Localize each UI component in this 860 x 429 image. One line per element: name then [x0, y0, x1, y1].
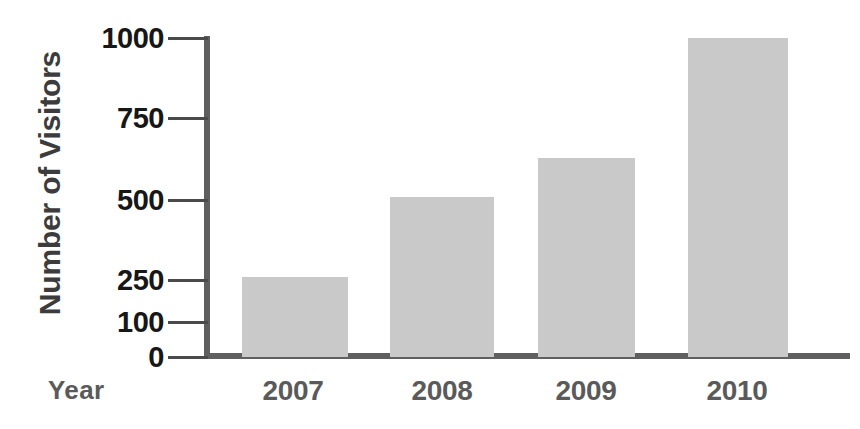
y-tick-label: 250	[44, 266, 164, 295]
y-tick-mark	[168, 356, 208, 359]
bar-2008	[390, 197, 494, 357]
x-axis-title: Year	[48, 375, 168, 406]
y-tick-mark	[168, 117, 208, 120]
plot-area: 01002505007501000 Year 2007200820092010	[0, 0, 860, 429]
y-tick-label: 1000	[44, 24, 164, 53]
bar-2007	[242, 277, 348, 357]
y-tick-mark	[168, 321, 208, 324]
y-tick-label: 500	[44, 186, 164, 215]
x-tick-label-2009: 2009	[516, 375, 656, 407]
y-tick-label: 100	[44, 308, 164, 337]
x-tick-label-2010: 2010	[667, 375, 807, 407]
bar-2009	[538, 158, 635, 357]
y-tick-mark	[168, 279, 208, 282]
bar-2010	[688, 38, 788, 357]
y-axis-spine	[204, 36, 210, 359]
y-tick-label: 0	[44, 343, 164, 372]
bar-chart: Number of Visitors 01002505007501000 Yea…	[0, 0, 860, 429]
y-tick-label: 750	[44, 104, 164, 133]
y-tick-mark	[168, 199, 208, 202]
x-tick-label-2007: 2007	[223, 375, 363, 407]
y-tick-mark	[168, 37, 208, 40]
x-tick-label-2008: 2008	[372, 375, 512, 407]
